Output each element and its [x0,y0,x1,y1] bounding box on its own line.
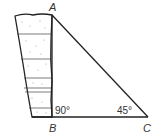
label-c: C [143,122,151,134]
triangle-diagram: A B C 90° 45° [0,0,162,137]
cliff-shape [15,14,52,117]
label-b: B [49,122,56,134]
angle-c: 45° [117,105,132,116]
label-a: A [48,1,56,13]
angle-b: 90° [55,105,70,116]
side-ac [52,15,148,117]
